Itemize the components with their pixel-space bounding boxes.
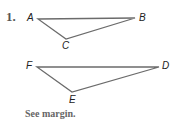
vertex-label-f: F: [26, 60, 32, 71]
vertex-label-e: E: [69, 94, 76, 105]
vertex-label-d: D: [162, 60, 169, 71]
vertex-label-c: C: [62, 40, 69, 51]
triangle-fde: [37, 67, 159, 92]
vertex-label-b: B: [139, 12, 146, 23]
vertex-label-a: A: [27, 12, 34, 23]
see-margin-note: See margin.: [25, 108, 76, 119]
triangle-abc: [38, 18, 135, 39]
